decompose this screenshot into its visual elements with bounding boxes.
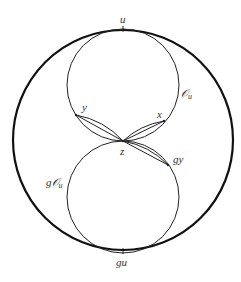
point-gy [167,164,169,166]
label-O-u: 𝒪u [181,87,192,101]
point-z [122,140,124,142]
label-y: y [81,101,87,113]
point-x [163,120,165,122]
segment-z-gy [123,141,168,165]
point-y [75,114,77,116]
label-gO-u: g𝒪u [46,176,63,190]
geometry-diagram: u gu z x y gy 𝒪u g𝒪u [0,0,241,282]
segment-x-z [123,121,164,141]
upper-circle-O-u [67,29,179,141]
label-x: x [156,108,162,120]
label-gu: gu [116,256,128,268]
label-u: u [120,13,126,25]
lower-circle-gO-u [67,141,179,253]
label-z: z [119,145,125,157]
label-gy: gy [173,153,184,165]
segment-y-z [76,115,123,141]
